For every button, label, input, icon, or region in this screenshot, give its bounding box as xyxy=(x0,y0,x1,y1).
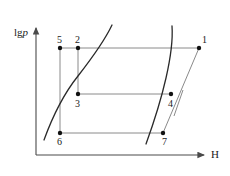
point-5 xyxy=(58,46,62,50)
point-6 xyxy=(58,131,62,135)
point-label-6: 6 xyxy=(57,137,62,147)
point-7 xyxy=(161,131,165,135)
y-axis-label-variable: p xyxy=(23,26,29,38)
point-1 xyxy=(197,46,201,50)
isotherm-curves-group xyxy=(44,25,172,144)
point-2 xyxy=(76,46,80,50)
point-label-1: 1 xyxy=(202,35,207,45)
point-label-2: 2 xyxy=(75,35,80,45)
point-label-4: 4 xyxy=(168,99,173,109)
y-axis-label-prefix: lg xyxy=(14,26,23,38)
point-label-7: 7 xyxy=(162,137,167,147)
point-label-3: 3 xyxy=(75,99,80,109)
diagram-canvas xyxy=(0,0,230,176)
y-axis-label: lgp xyxy=(14,27,28,38)
point-label-5: 5 xyxy=(57,35,62,45)
connector-lines-group xyxy=(60,48,199,133)
thermodynamic-diagram: lgp H 1 2 3 4 5 6 7 xyxy=(0,0,230,176)
right-isotherm-curve xyxy=(146,26,172,144)
line-7-4-1 xyxy=(163,48,199,133)
point-4 xyxy=(169,92,173,96)
x-axis-label: H xyxy=(211,149,219,160)
point-3 xyxy=(76,92,80,96)
state-points-group xyxy=(58,46,201,135)
